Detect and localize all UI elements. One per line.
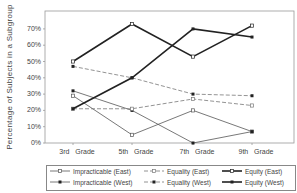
- legend-label: Impracticable (East): [73, 168, 131, 175]
- legend-label: Impracticable (West): [73, 179, 132, 186]
- y-tick-label: 60%: [17, 41, 41, 48]
- x-tick-label: 5th Grade: [118, 148, 153, 155]
- y-tick-label: 40%: [17, 74, 41, 81]
- series-equality-west: [72, 65, 254, 97]
- legend-label: Equality (East): [167, 168, 209, 175]
- series-impracticable-east: [71, 94, 253, 136]
- legend-swatch: [49, 179, 73, 186]
- y-axis-label-text: Percentage of Subjects in a Subgroup: [5, 4, 14, 150]
- legend-swatch: [143, 168, 167, 175]
- series-impracticable-west: [72, 89, 254, 144]
- legend-item-equity-west: Equity (West): [221, 179, 284, 186]
- series-equity-east: [71, 22, 253, 63]
- legend-swatch: [221, 168, 245, 175]
- legend-swatch: [143, 179, 167, 186]
- legend-item-impracticable-west: Impracticable (West): [49, 179, 132, 186]
- y-tick-label: 20%: [17, 106, 41, 113]
- x-tick-label: 9th Grade: [238, 148, 273, 155]
- legend-item-equity-east: Equity (East): [221, 168, 282, 175]
- y-axis-label: Percentage of Subjects in a Subgroup: [2, 12, 16, 142]
- legend-label: Equality (West): [167, 179, 211, 186]
- legend: Impracticable (East) Equality (East) Equ…: [46, 165, 296, 191]
- y-tick-label: 0%: [17, 139, 41, 146]
- legend-item-equality-east: Equality (East): [143, 168, 209, 175]
- chart-series: [71, 22, 253, 144]
- plot-frame: [45, 11, 294, 143]
- legend-item-impracticable-east: Impracticable (East): [49, 168, 131, 175]
- legend-swatch: [221, 179, 245, 186]
- y-tick-label: 50%: [17, 58, 41, 65]
- line-chart: [0, 0, 297, 165]
- legend-label: Equity (East): [245, 168, 282, 175]
- x-tick-label: 7th Grade: [179, 148, 214, 155]
- legend-swatch: [49, 168, 73, 175]
- legend-label: Equity (West): [245, 179, 284, 186]
- y-tick-label: 10%: [17, 123, 41, 130]
- x-tick-label: 3rd Grade: [59, 148, 94, 155]
- y-tick-label: 30%: [17, 90, 41, 97]
- legend-item-equality-west: Equality (West): [143, 179, 211, 186]
- y-tick-label: 70%: [17, 25, 41, 32]
